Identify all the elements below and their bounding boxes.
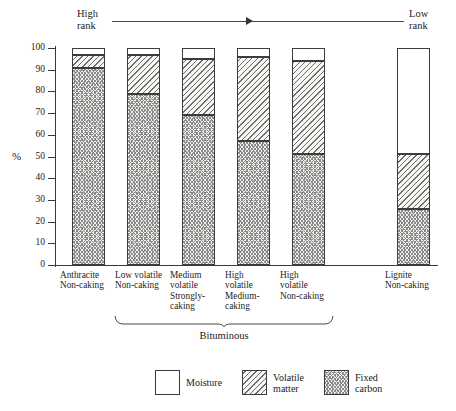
y-axis-tick-label: 40 [36,172,46,182]
legend-label: Volatile matter [273,372,304,394]
bar-segment-moisture [72,48,105,55]
rank-arrow-line [112,21,404,22]
bar-segment-fixed-carbon [237,141,270,265]
bar-segment-fixed-carbon [292,154,325,265]
y-axis-tick-label: 30 [36,194,46,204]
bar-segment-moisture [237,48,270,57]
y-axis-label: % [12,150,21,162]
bar-segment-fixed-carbon [182,115,215,265]
x-axis-category-label: Low volatile Non-caking [115,270,173,291]
bar-segment-volatile-matter [127,55,160,94]
stacked-bar [182,48,215,265]
bar-segment-volatile-matter [72,55,105,68]
stacked-bar [72,48,105,265]
bar-segment-fixed-carbon [72,68,105,265]
stacked-bar [397,48,430,265]
bar-segment-fixed-carbon [397,209,430,265]
x-axis-category-label: Anthracite Non-caking [60,270,118,291]
bar-segment-volatile-matter [182,59,215,115]
y-axis-tick-label: 10 [36,237,46,247]
y-axis-tick-label: 90 [36,64,46,74]
bituminous-label: Bituminous [113,330,335,341]
y-axis-tick-label: 70 [36,107,46,117]
y-axis-tick-label: 80 [36,85,46,95]
stacked-bar [292,48,325,265]
y-axis-tick-label: 100 [31,42,45,52]
x-axis-line [55,265,438,266]
bar-segment-moisture [182,48,215,59]
x-axis-category-label: High volatile Non-caking [280,270,338,301]
bituminous-brace-icon [113,315,335,327]
legend-swatch-carbon [324,370,349,395]
legend-swatch-moisture [155,370,180,395]
chart-plot-area [55,48,437,265]
legend-item: Fixed carbon [324,370,382,395]
legend-label: Moisture [186,377,222,388]
bar-segment-moisture [127,48,160,55]
low-rank-label: Low rank [409,8,428,31]
chart-legend: MoistureVolatile matterFixed carbon [155,370,382,395]
high-rank-label: High rank [77,8,98,31]
y-axis-tick-label: 0 [40,259,45,269]
y-axis-tick-label: 60 [36,129,46,139]
stacked-bar [237,48,270,265]
legend-item: Moisture [155,370,222,395]
y-axis-tick: 0 [48,265,56,266]
legend-item: Volatile matter [242,370,304,395]
bar-segment-moisture [397,48,430,154]
bar-segment-volatile-matter [292,61,325,154]
legend-label: Fixed carbon [355,372,382,394]
x-axis-category-label: Lignite Non-caking [385,270,443,291]
bar-segment-moisture [292,48,325,61]
y-axis-tick-label: 20 [36,216,46,226]
y-axis-tick-label: 50 [36,151,46,161]
bar-segment-volatile-matter [397,154,430,208]
stacked-bar [127,48,160,265]
x-axis-category-label: High volatile Medium- caking [225,270,283,312]
rank-arrow-head-icon [246,17,253,25]
bar-segment-volatile-matter [237,57,270,142]
legend-swatch-volatile [242,370,267,395]
bar-segment-fixed-carbon [127,94,160,265]
x-axis-category-label: Medium volatile Strongly- caking [170,270,228,312]
